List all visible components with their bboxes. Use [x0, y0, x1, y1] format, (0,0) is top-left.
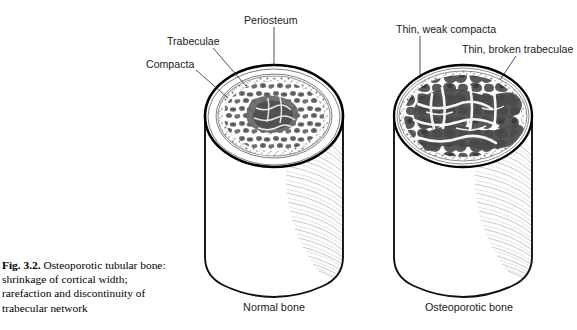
figure-number: Fig. 3.2.: [2, 259, 41, 271]
label-compacta: Compacta: [146, 58, 194, 70]
label-thin-weak-compacta: Thin, weak compacta: [396, 23, 496, 35]
label-thin-broken-trabeculae: Thin, broken trabeculae: [462, 43, 573, 55]
figure-caption: Fig. 3.2. Osteoporotic tubular bone: shr…: [2, 258, 178, 315]
specimen-caption-osteoporotic: Osteoporotic bone: [406, 301, 532, 313]
osteo-trabecular-network: [399, 71, 527, 161]
specimen-caption-normal: Normal bone: [219, 301, 329, 313]
figure-page: Periosteum Trabeculae Compacta Thin, wea…: [0, 0, 577, 330]
label-trabeculae: Trabeculae: [167, 35, 220, 47]
osteoporotic-bone-specimen: [394, 36, 532, 297]
label-periosteum: Periosteum: [244, 14, 298, 26]
normal-bone-specimen: [196, 27, 343, 297]
